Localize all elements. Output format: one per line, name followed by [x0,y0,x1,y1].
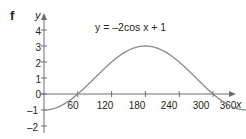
y-axis-arrowhead [41,13,47,20]
trigonometric-graph-figure: f y x y = –2cos x + 1 4 3 2 1 0 –1 –2 60… [0,0,246,139]
cosine-curve [44,46,246,110]
x-axis-arrowhead [229,91,236,97]
plot-canvas [0,0,246,139]
y-axis-group [41,13,47,133]
